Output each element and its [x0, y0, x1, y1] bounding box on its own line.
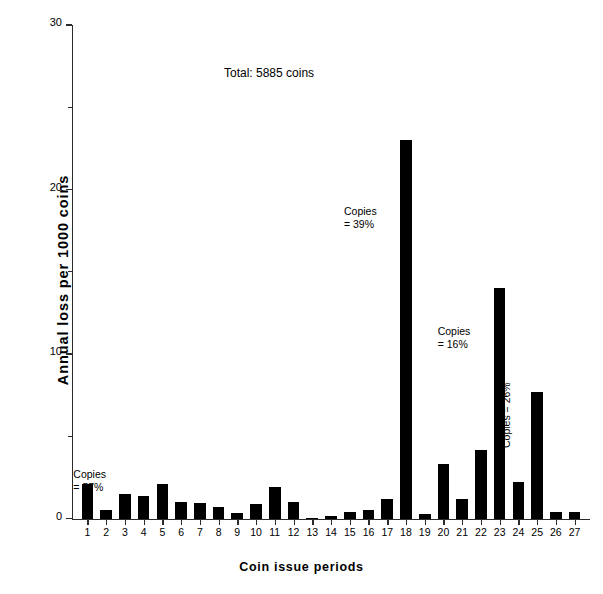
- bar: [100, 510, 112, 518]
- bar: [438, 464, 450, 518]
- y-tick-label: 10: [50, 345, 62, 357]
- y-tick-minor: [68, 271, 72, 272]
- x-tick: [144, 520, 145, 525]
- bar: [475, 450, 487, 519]
- y-tick-major: 0: [66, 518, 72, 519]
- bar: [531, 392, 543, 519]
- x-tick-label: 27: [563, 526, 587, 538]
- annotation-copies-57: Copies = 57%: [73, 468, 106, 494]
- bar: [250, 504, 262, 519]
- bar: [513, 482, 525, 518]
- x-tick: [518, 520, 519, 525]
- y-tick-label: 20: [50, 181, 62, 193]
- x-tick: [294, 520, 295, 525]
- x-tick: [162, 520, 163, 525]
- y-tick-label: 0: [56, 510, 62, 522]
- bar: [344, 512, 356, 519]
- y-axis-line: [72, 25, 73, 520]
- x-tick: [500, 520, 501, 525]
- bar: [306, 518, 318, 519]
- bar: [400, 140, 412, 518]
- x-tick: [312, 520, 313, 525]
- y-tick-major: 30: [66, 24, 72, 25]
- plot-area: 0102030 12345678910111213141516171819202…: [72, 25, 590, 520]
- x-tick: [87, 520, 88, 525]
- x-tick: [350, 520, 351, 525]
- y-tick-major: 20: [66, 189, 72, 190]
- bar: [419, 514, 431, 519]
- bar: [157, 484, 169, 519]
- y-tick-label: 30: [50, 16, 62, 28]
- bar: [231, 513, 243, 519]
- x-tick: [556, 520, 557, 525]
- x-tick: [406, 520, 407, 525]
- y-tick-major: 10: [66, 353, 72, 354]
- x-tick: [575, 520, 576, 525]
- bar: [138, 496, 150, 519]
- y-tick-minor: [68, 107, 72, 108]
- x-tick: [425, 520, 426, 525]
- bar: [569, 512, 581, 519]
- figure: Annual loss per 1000 coins Total: 5885 c…: [0, 0, 603, 594]
- bar: [381, 499, 393, 519]
- x-tick: [387, 520, 388, 525]
- annotation-copies-26: Copies = 26%: [500, 382, 513, 448]
- x-tick: [237, 520, 238, 525]
- x-tick: [219, 520, 220, 525]
- y-tick-minor: [68, 436, 72, 437]
- x-axis-title: Coin issue periods: [0, 560, 603, 574]
- bar: [325, 516, 337, 518]
- bar: [269, 487, 281, 518]
- x-tick: [368, 520, 369, 525]
- y-axis-title: Annual loss per 1000 coins: [55, 120, 71, 440]
- bar: [456, 499, 468, 519]
- bar: [194, 503, 206, 519]
- x-tick: [181, 520, 182, 525]
- x-tick: [481, 520, 482, 525]
- bar: [550, 512, 562, 519]
- bar: [175, 502, 187, 518]
- x-tick: [200, 520, 201, 525]
- x-tick: [331, 520, 332, 525]
- x-tick: [462, 520, 463, 525]
- x-tick: [275, 520, 276, 525]
- annotation-copies-16: Copies = 16%: [438, 325, 471, 351]
- bar: [213, 507, 225, 519]
- bar: [119, 494, 131, 519]
- annotation-copies-39: Copies = 39%: [344, 205, 377, 231]
- x-tick: [537, 520, 538, 525]
- bar: [363, 510, 375, 518]
- x-tick: [443, 520, 444, 525]
- bar: [288, 502, 300, 518]
- x-tick: [256, 520, 257, 525]
- x-tick: [125, 520, 126, 525]
- x-tick: [106, 520, 107, 525]
